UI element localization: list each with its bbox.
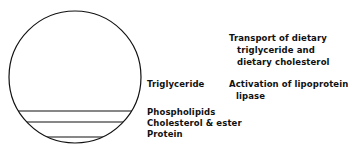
- label-cholesterol: Cholesterol & ester: [147, 118, 242, 129]
- label-triglyceride: Triglyceride: [147, 79, 204, 90]
- function-1-line-1: Transport of dietary: [229, 33, 327, 44]
- label-protein: Protein: [147, 129, 183, 140]
- particle-circle: [9, 11, 141, 143]
- function-1-line-2: triglyceride and: [237, 45, 315, 56]
- function-2-line-1: Activation of lipoprotein: [229, 79, 348, 90]
- label-phospholipids: Phospholipids: [147, 107, 215, 118]
- function-1-line-3: dietary cholesterol: [237, 57, 330, 68]
- function-2-line-2: lipase: [236, 91, 265, 102]
